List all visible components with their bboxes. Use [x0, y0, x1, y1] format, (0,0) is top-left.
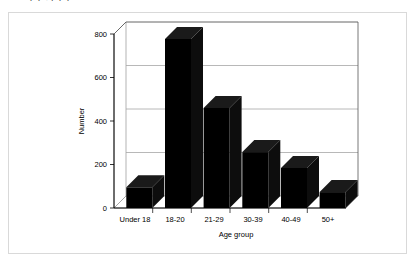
bar-30-39[interactable] [242, 140, 280, 208]
x-axis-labels: Under 18 18-20 21-29 30-39 40-49 50+ [120, 215, 335, 224]
y-tick-label-600: 600 [94, 73, 107, 82]
cut-off-text-strip: p p , p p p [0, 0, 417, 9]
cut-off-text: p p , p p p [30, 0, 72, 1]
bar-front-face [204, 108, 230, 208]
x-tick-label-1: 18-20 [165, 215, 184, 224]
bar-front-face [242, 152, 268, 208]
y-axis-title: Number [77, 107, 86, 134]
y-tick-label-800: 800 [94, 30, 107, 39]
y-tick-label-0: 0 [103, 204, 107, 213]
x-axis-ticks [153, 208, 308, 213]
chart-svg: 0 200 400 600 800 Number [9, 13, 408, 255]
y-tick-label-200: 200 [94, 160, 107, 169]
bar-front-face [165, 39, 191, 208]
x-tick-label-5: 50+ [322, 215, 335, 224]
x-axis-title: Age group [219, 230, 254, 239]
plot-left-wall [114, 22, 126, 208]
bar-side-face [191, 27, 203, 208]
bar-front-face [281, 168, 307, 208]
bar-40-49[interactable] [281, 156, 319, 208]
bar-side-face [230, 96, 242, 208]
bar-front-face [320, 192, 346, 208]
bar-18-20[interactable] [165, 27, 203, 208]
figure-frame: 0 200 400 600 800 Number [8, 12, 407, 254]
bar-front-face [126, 187, 152, 208]
y-tick-label-400: 400 [94, 117, 107, 126]
screenshot-root: p p , p p p [0, 0, 417, 267]
x-tick-label-4: 40-49 [281, 215, 300, 224]
x-tick-label-2: 21-29 [204, 215, 223, 224]
x-tick-label-0: Under 18 [120, 215, 151, 224]
x-tick-label-3: 30-39 [243, 215, 262, 224]
y-axis-ticks: 0 200 400 600 800 [94, 30, 114, 213]
bar-chart: 0 200 400 600 800 Number [9, 13, 408, 255]
bar-21-29[interactable] [204, 96, 242, 208]
